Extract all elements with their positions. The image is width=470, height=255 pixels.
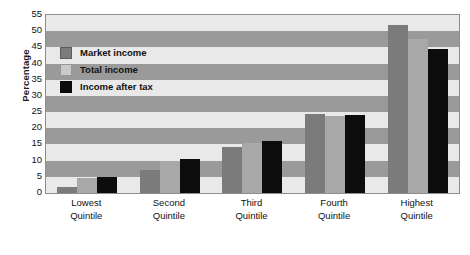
legend-swatch-icon <box>60 64 72 76</box>
bar[interactable] <box>77 178 97 193</box>
bar-groups <box>46 15 459 193</box>
bar[interactable] <box>408 39 428 193</box>
legend-label: Market income <box>80 47 147 58</box>
bar-group <box>294 15 377 193</box>
legend-label: Total income <box>80 64 138 75</box>
x-tick-label: LowestQuintile <box>45 197 128 222</box>
y-tick-10: 10 <box>18 155 42 165</box>
x-axis-tick-labels: LowestQuintileSecondQuintileThirdQuintil… <box>45 197 458 222</box>
legend-item[interactable]: Market income <box>60 44 153 61</box>
legend-swatch-icon <box>60 81 72 93</box>
y-tick-35: 35 <box>18 74 42 84</box>
x-tick-label-line: Fourth <box>293 197 376 210</box>
bar-group <box>376 15 459 193</box>
y-tick-20: 20 <box>18 123 42 133</box>
x-tick-label-line: Second <box>128 197 211 210</box>
legend: Market incomeTotal incomeIncome after ta… <box>60 44 153 95</box>
bar-group <box>211 15 294 193</box>
bar[interactable] <box>345 115 365 193</box>
legend-label: Income after tax <box>80 81 153 92</box>
y-axis-tick-labels: 0510152025303540455055 <box>18 14 42 192</box>
legend-swatch-icon <box>60 47 72 59</box>
x-tick-label-line: Highest <box>375 197 458 210</box>
bar-group <box>129 15 212 193</box>
x-tick-label-line: Lowest <box>45 197 128 210</box>
bar-group <box>46 15 129 193</box>
y-tick-25: 25 <box>18 106 42 116</box>
bar[interactable] <box>222 147 242 193</box>
bar[interactable] <box>325 116 345 193</box>
bar[interactable] <box>57 187 77 193</box>
bar[interactable] <box>428 49 448 193</box>
x-tick-label: HighestQuintile <box>375 197 458 222</box>
y-tick-50: 50 <box>18 25 42 35</box>
bar[interactable] <box>242 143 262 193</box>
x-tick-label: SecondQuintile <box>128 197 211 222</box>
x-tick-label-line: Quintile <box>210 210 293 223</box>
x-tick-label-line: Quintile <box>293 210 376 223</box>
x-tick-label-line: Third <box>210 197 293 210</box>
y-tick-0: 0 <box>18 187 42 197</box>
bar[interactable] <box>97 177 117 193</box>
bar[interactable] <box>305 114 325 193</box>
legend-item[interactable]: Total income <box>60 61 153 78</box>
y-tick-45: 45 <box>18 42 42 52</box>
bar[interactable] <box>262 141 282 193</box>
bar[interactable] <box>180 159 200 193</box>
bar-chart: Percentage 0510152025303540455055 Market… <box>0 0 470 255</box>
y-tick-55: 55 <box>18 9 42 19</box>
x-tick-label-line: Quintile <box>128 210 211 223</box>
y-tick-15: 15 <box>18 139 42 149</box>
y-tick-30: 30 <box>18 90 42 100</box>
bar[interactable] <box>388 25 408 193</box>
bar[interactable] <box>160 161 180 193</box>
y-tick-40: 40 <box>18 58 42 68</box>
bar[interactable] <box>140 170 160 193</box>
plot-area <box>45 14 460 194</box>
legend-item[interactable]: Income after tax <box>60 78 153 95</box>
x-tick-label: ThirdQuintile <box>210 197 293 222</box>
x-tick-label-line: Quintile <box>375 210 458 223</box>
y-tick-5: 5 <box>18 171 42 181</box>
x-tick-label-line: Quintile <box>45 210 128 223</box>
x-tick-label: FourthQuintile <box>293 197 376 222</box>
